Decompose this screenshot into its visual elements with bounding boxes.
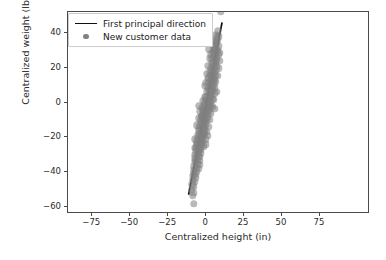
legend-dot-swatch — [73, 34, 99, 40]
x-tick-label: −50 — [120, 217, 138, 227]
x-tick-label: −25 — [158, 217, 176, 227]
x-tick-mark — [281, 213, 282, 216]
legend-item-new-customer-data: New customer data — [73, 30, 206, 43]
x-tick-label: 25 — [238, 217, 249, 227]
y-tick-mark — [64, 171, 67, 172]
x-tick-label: 0 — [202, 217, 207, 227]
x-tick-mark — [167, 213, 168, 216]
legend-item-first-principal-direction: First principal direction — [73, 17, 206, 30]
y-tick-mark — [64, 32, 67, 33]
y-tick-mark — [64, 67, 67, 68]
y-axis-label: Centralized weight (lb) — [20, 0, 31, 131]
x-tick-label: −75 — [82, 217, 100, 227]
x-tick-mark — [243, 213, 244, 216]
legend-label: New customer data — [103, 32, 191, 42]
y-tick-mark — [64, 102, 67, 103]
x-tick-mark — [319, 213, 320, 216]
x-tick-label: 50 — [276, 217, 287, 227]
x-tick-mark — [91, 213, 92, 216]
y-tick-label: 0 — [56, 97, 61, 107]
chart-legend: First principal direction New customer d… — [68, 13, 213, 47]
y-tick-mark — [64, 206, 67, 207]
x-axis-label: Centralized height (in) — [67, 231, 369, 242]
scatter-plot-figure: −75−50−25025507540200−20−40−60 Centraliz… — [0, 0, 386, 260]
y-tick-label: 20 — [50, 62, 61, 72]
legend-label: First principal direction — [103, 19, 206, 29]
y-tick-label: −20 — [43, 131, 61, 141]
y-tick-label: −60 — [43, 201, 61, 211]
y-tick-label: 40 — [50, 27, 61, 37]
legend-line-swatch — [73, 23, 99, 25]
x-tick-mark — [205, 213, 206, 216]
y-tick-label: −40 — [43, 166, 61, 176]
y-tick-mark — [64, 136, 67, 137]
x-tick-mark — [129, 213, 130, 216]
x-tick-label: 75 — [313, 217, 324, 227]
